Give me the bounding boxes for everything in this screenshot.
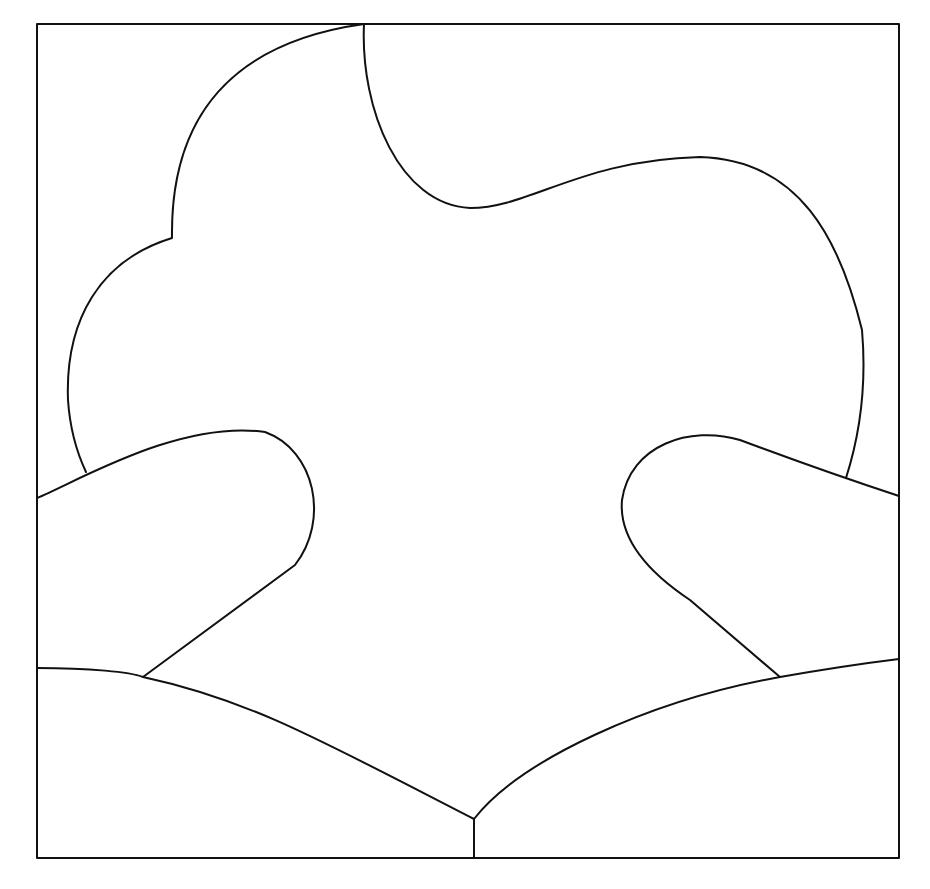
frame-border bbox=[37, 24, 899, 858]
right-base-outline bbox=[474, 659, 899, 819]
line-drawing bbox=[0, 0, 930, 889]
cloud-outline-top-notch bbox=[364, 24, 864, 478]
left-hand-outline bbox=[37, 430, 314, 677]
left-base-outline bbox=[37, 668, 474, 819]
cloud-outline-left bbox=[68, 24, 364, 472]
right-hand-outline bbox=[622, 435, 899, 677]
